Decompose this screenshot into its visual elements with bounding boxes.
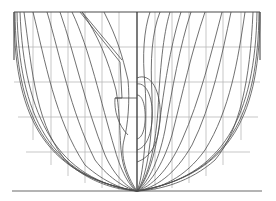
hull-lines-svg (0, 0, 276, 201)
body-plan-drawing (0, 0, 276, 201)
aft-station-curves (14, 12, 137, 191)
forward-station-curves (137, 12, 260, 191)
